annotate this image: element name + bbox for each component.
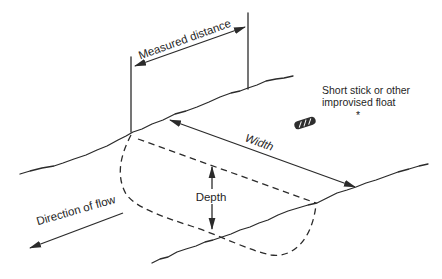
stream-measurement-diagram: Measured distance Width Depth Direction … bbox=[0, 0, 442, 279]
far-bank-line bbox=[20, 76, 293, 174]
diagram-svg: Measured distance Width Depth Direction … bbox=[0, 0, 442, 279]
float-note-line2: improvised float bbox=[322, 96, 396, 108]
near-bank-line bbox=[152, 164, 428, 263]
width-arrow bbox=[170, 120, 355, 187]
float-stick-icon bbox=[293, 116, 316, 130]
float-note-line1: Short stick or other bbox=[322, 84, 411, 96]
float-note-asterisk: * bbox=[356, 109, 360, 121]
width-label: Width bbox=[244, 132, 276, 153]
depth-label: Depth bbox=[196, 191, 227, 203]
measured-distance-label: Measured distance bbox=[137, 17, 232, 62]
direction-of-flow-label: Direction of flow bbox=[35, 193, 118, 227]
